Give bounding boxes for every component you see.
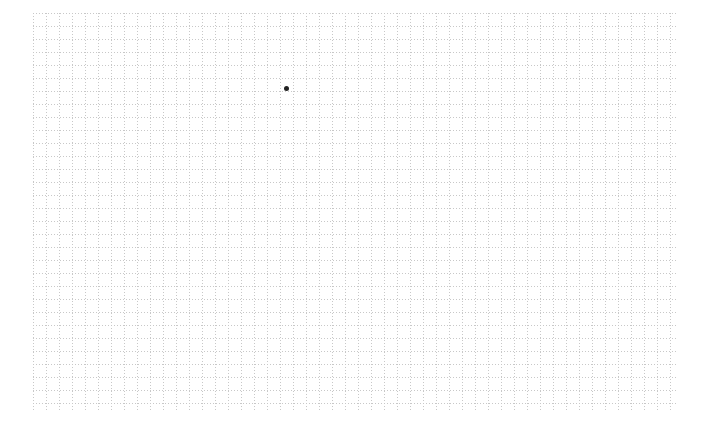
point-marker — [284, 86, 289, 91]
dotted-grid[interactable] — [33, 13, 676, 410]
